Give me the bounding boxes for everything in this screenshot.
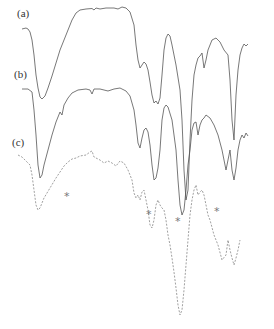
spectrum-a-line [22,7,248,200]
spectra-chart [0,0,274,329]
asterisk-marker-4: * [214,205,220,218]
asterisk-marker-2: * [146,208,152,221]
asterisk-marker-3: * [175,215,181,228]
asterisk-marker-1: * [64,190,70,203]
label-a: (a) [17,7,29,19]
spectrum-b-line [22,88,248,215]
label-c: (c) [12,136,24,148]
spectrum-c-line [18,151,240,315]
label-b: (b) [14,68,27,80]
